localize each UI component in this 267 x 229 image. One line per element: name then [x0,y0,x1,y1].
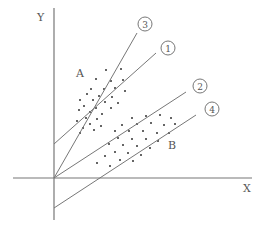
data-point-a [124,90,126,92]
y-axis-label: Y [36,11,45,24]
data-point-b [121,124,123,126]
line-1 [54,53,156,144]
line-4-label: 4 [209,105,215,115]
data-point-b [142,130,144,132]
data-point-b [127,152,129,154]
data-point-a [90,88,92,90]
data-point-b [114,130,116,132]
data-point-b [104,155,106,157]
scatter-diagram: 1234 Y X A B [0,0,267,229]
data-point-b [96,162,98,164]
cluster-a-label: A [75,67,85,80]
data-point-b [131,138,133,140]
data-point-b [114,151,116,153]
data-point-b [140,154,142,156]
data-point-b [145,138,147,140]
line-3-label: 3 [142,20,148,30]
data-point-a [76,120,78,122]
line-4 [54,115,196,208]
x-axis-label: X [243,182,251,195]
data-point-a [111,96,113,98]
cluster-b-label: B [168,139,176,152]
line-3 [54,33,137,178]
data-point-b [163,124,165,126]
labels: Y X A B [36,11,251,195]
data-point-a [83,105,85,107]
data-point-a [101,113,103,115]
data-point-b [145,115,147,117]
data-point-b [109,165,111,167]
data-point-a [100,125,102,127]
data-point-a [104,101,106,103]
line-1-label: 1 [165,44,171,54]
data-point-b [136,145,138,147]
regression-lines: 1234 [54,17,219,208]
data-point-a [85,117,87,119]
line-2-label: 2 [197,82,203,92]
data-point-b [149,147,151,149]
data-point-b [119,159,121,161]
data-point-a [92,99,94,101]
data-point-b [150,122,152,124]
data-point-b [132,160,134,162]
data-point-a [98,95,100,97]
diagram-canvas: 1234 Y X A B [0,0,267,229]
data-point-b [170,117,172,119]
data-point-a [79,99,81,101]
data-point-a [96,118,98,120]
data-point-b [128,130,130,132]
data-point-b [122,144,124,146]
data-point-b [108,143,110,145]
data-point-a [117,102,119,104]
data-point-a [89,123,91,125]
data-point-a [120,68,122,70]
data-points [76,68,176,167]
data-point-b [174,123,176,125]
data-point-a [105,69,107,71]
data-point-b [131,117,133,119]
data-point-b [159,114,161,116]
data-point-a [95,78,97,80]
data-point-a [110,107,112,109]
data-point-a [93,129,95,131]
data-point-b [156,132,158,134]
data-point-a [86,93,88,95]
data-point-a [78,109,80,111]
data-point-a [122,79,124,81]
